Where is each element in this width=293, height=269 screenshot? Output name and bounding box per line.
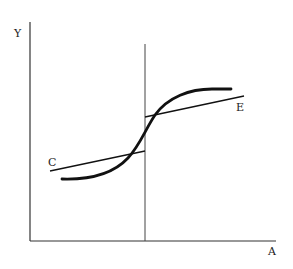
line-e	[145, 96, 244, 117]
y-axis-label: Y	[13, 27, 22, 40]
diagram: Y A C E	[0, 0, 293, 269]
line-e-label: E	[236, 101, 244, 114]
x-axis-label: A	[267, 245, 277, 258]
line-c-label: C	[48, 156, 56, 169]
s-curve	[62, 89, 231, 179]
